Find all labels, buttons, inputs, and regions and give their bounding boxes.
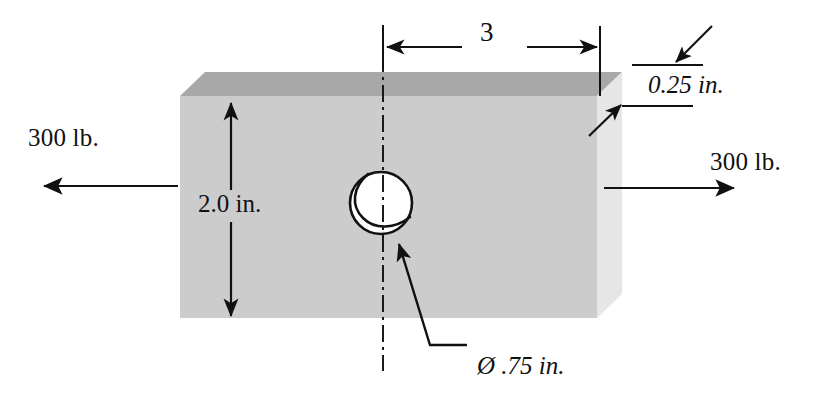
- diagram-canvas: 300 lb. 300 lb. 2.0 in. 3 0.25 in. Ø .75…: [0, 0, 816, 405]
- width-dimension-label: 3: [480, 17, 494, 48]
- thickness-dimension-label: 0.25 in.: [648, 71, 724, 99]
- force-left-label: 300 lb.: [28, 124, 99, 152]
- hole-circle: [350, 172, 412, 234]
- bar-top-face: [180, 72, 622, 96]
- hole: [350, 172, 412, 234]
- height-dimension-label: 2.0 in.: [198, 190, 261, 218]
- hole-diameter-label: Ø .75 in.: [477, 352, 565, 380]
- engineering-diagram: [0, 0, 816, 405]
- thickness-leader-upper-arrow: [676, 26, 712, 62]
- force-right-label: 300 lb.: [710, 148, 781, 176]
